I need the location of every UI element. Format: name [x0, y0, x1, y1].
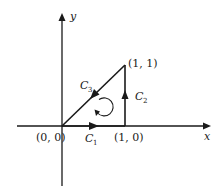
c2-label: C 2	[135, 90, 147, 105]
c3-label: C 3	[80, 79, 92, 94]
svg-text:1: 1	[93, 139, 97, 147]
x-axis-arrow-icon	[203, 123, 211, 130]
y-axis-arrow-icon	[59, 13, 66, 21]
y-axis	[59, 13, 66, 186]
c2-arrow-icon	[122, 90, 129, 99]
origin-label: (0, 0)	[36, 131, 66, 144]
triangle-path	[62, 65, 129, 130]
x-axis-label: x	[204, 130, 211, 143]
point-1-0-label: (1, 0)	[114, 131, 144, 144]
svg-text:2: 2	[143, 97, 147, 105]
svg-text:3: 3	[88, 86, 92, 94]
y-axis-label: y	[69, 10, 77, 23]
point-1-1-label: (1, 1)	[128, 57, 158, 70]
diagram-canvas: y x (0, 0) (1, 0) (1, 1) C 1 C 2 C 3	[0, 0, 222, 194]
c1-label: C 1	[85, 132, 97, 147]
c1-arrow-icon	[89, 122, 99, 130]
counterclockwise-orientation-icon	[95, 98, 114, 116]
